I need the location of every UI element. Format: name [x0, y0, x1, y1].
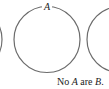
circle-a [14, 7, 80, 73]
caption: No A are B. [57, 76, 104, 87]
right-circle [87, 7, 109, 73]
circle-a-label: A [43, 1, 51, 12]
left-circle [0, 7, 2, 73]
caption-middle: are [78, 76, 95, 87]
caption-prefix: No [57, 76, 72, 87]
caption-suffix: . [101, 76, 104, 87]
